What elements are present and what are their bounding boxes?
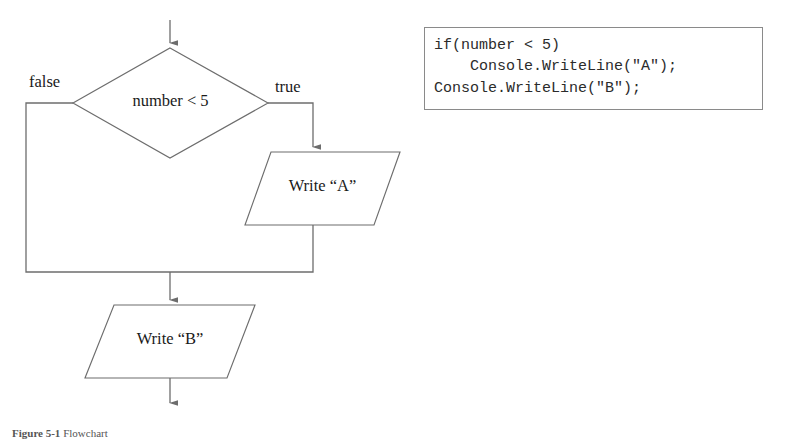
connector-write-a-to-merge (170, 225, 313, 272)
code-listing: if(number < 5) Console.WriteLine("A"); C… (425, 28, 762, 99)
write-a-label: Write “A” (245, 178, 400, 195)
figure-caption-text: Flowchart (63, 427, 108, 439)
figure-caption: Figure 5-1 Flowchart (12, 427, 108, 439)
decision-label: number < 5 (73, 93, 268, 110)
connector-true-branch (268, 103, 313, 147)
connector-false-branch (26, 103, 170, 272)
branch-label-true: true (275, 79, 301, 96)
write-b-label: Write “B” (85, 331, 255, 348)
figure-caption-label: Figure 5-1 (12, 427, 60, 439)
code-panel: if(number < 5) Console.WriteLine("A"); C… (424, 27, 763, 110)
branch-label-false: false (29, 74, 60, 91)
